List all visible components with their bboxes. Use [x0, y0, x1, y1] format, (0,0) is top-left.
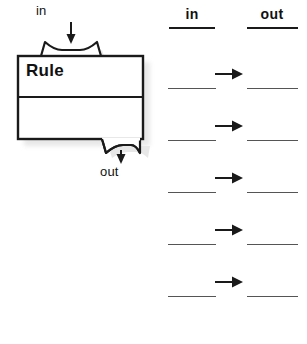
arrow-right-icon — [211, 222, 247, 238]
column-header-in: in — [168, 7, 216, 21]
worksheet-canvas: in Rule out in out — [0, 0, 307, 344]
arrow-right-icon — [211, 274, 247, 290]
answer-blank-in[interactable] — [168, 140, 216, 141]
arrow-right-icon — [211, 170, 247, 186]
machine-output-label: out — [100, 165, 119, 178]
answer-blank-out[interactable] — [247, 88, 298, 89]
column-header-out: out — [246, 7, 298, 21]
answer-blank-in[interactable] — [168, 88, 216, 89]
answer-blank-out[interactable] — [247, 192, 298, 193]
arrow-right-icon — [211, 66, 247, 82]
answer-blank-in[interactable] — [168, 192, 216, 193]
answer-blank-in[interactable] — [168, 244, 216, 245]
answer-blank-out[interactable] — [247, 296, 298, 297]
column-header-out-underline — [247, 27, 298, 29]
arrow-down-icon-input — [67, 22, 76, 44]
rule-machine-graphic — [0, 0, 160, 200]
in-out-table: in out — [160, 0, 307, 344]
machine-input-label: in — [36, 4, 47, 17]
answer-blank-out[interactable] — [247, 244, 298, 245]
column-header-in-underline — [169, 27, 215, 29]
rule-machine-diagram: in Rule out — [0, 0, 160, 200]
machine-input-notch — [41, 42, 101, 56]
answer-blank-out[interactable] — [247, 140, 298, 141]
arrow-right-icon — [211, 118, 247, 134]
answer-blank-in[interactable] — [168, 296, 216, 297]
machine-box-label: Rule — [26, 62, 64, 81]
